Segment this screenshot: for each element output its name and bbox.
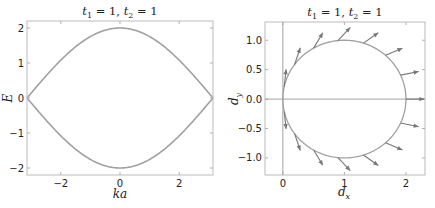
y-tick-label: −1 — [9, 128, 24, 139]
y-tick-label: −0.5 — [238, 123, 262, 134]
upper-band-line — [27, 28, 213, 98]
d-vector-circle-and-arrows — [265, 22, 425, 175]
y-tick-label: 1 — [18, 58, 24, 69]
x-tick-label: 0 — [280, 178, 286, 189]
x-axis-label-ka: ka — [113, 187, 127, 201]
left-plot-ticks: −202−2−1012 — [9, 21, 213, 189]
left-plot-frame — [27, 21, 213, 175]
figure: t1 = 1, t2 = 1 −202−2−1012 ka E t1 = 1, … — [0, 0, 435, 208]
quiver-arrow — [363, 33, 378, 43]
y-tick-label: −1.0 — [238, 152, 262, 163]
x-tick-label: 2 — [403, 178, 409, 189]
y-tick-label: 2 — [18, 23, 24, 34]
quiver-arrow — [363, 155, 378, 165]
x-axis-label-dx: dx — [338, 185, 351, 201]
y-tick-label: −2 — [9, 163, 24, 174]
x-tick-label: 2 — [176, 178, 182, 189]
quiver-arrow — [406, 97, 424, 101]
quiver-arrow — [386, 143, 403, 150]
quiver-arrow — [401, 70, 419, 75]
y-tick-label: 0.5 — [246, 64, 262, 75]
y-tick-label: 0.0 — [246, 94, 262, 105]
x-tick-label: −2 — [53, 178, 68, 189]
y-axis-label-e: E — [1, 93, 15, 103]
y-axis-label-dy: dy — [227, 92, 243, 105]
right-plot-frame — [265, 22, 425, 175]
quiver-arrow — [295, 48, 301, 65]
band-structure-plot: t1 = 1, t2 = 1 −202−2−1012 ka E — [1, 4, 213, 201]
quiver-arrow — [401, 123, 419, 128]
band-curves — [27, 28, 213, 168]
lower-band-line — [27, 98, 213, 168]
y-tick-label: 0 — [18, 93, 24, 104]
quiver-arrow — [295, 134, 301, 151]
quiver-arrow — [338, 158, 350, 171]
right-plot-title: t1 = 1, t2 = 1 — [307, 5, 382, 21]
left-plot-title: t1 = 1, t2 = 1 — [82, 4, 157, 20]
y-tick-label: 1.0 — [246, 35, 262, 46]
quiver-arrow — [386, 48, 403, 55]
right-plot-ticks: 012−1.0−0.50.00.51.0 — [238, 22, 425, 189]
quiver-arrow — [338, 27, 350, 40]
d-vector-plot: t1 = 1, t2 = 1 012−1.0−0.50.00.51.0 dx d… — [227, 5, 425, 201]
